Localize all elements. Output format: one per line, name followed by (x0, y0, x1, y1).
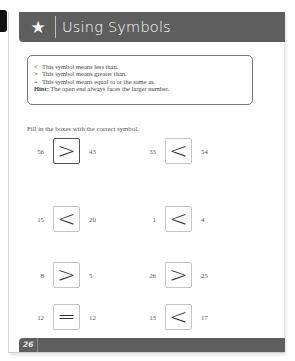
answer-box[interactable]: < (165, 206, 192, 232)
info-line-less-than: <This symbol means less than. (34, 63, 246, 70)
right-number: 4 (192, 216, 210, 223)
answer-box[interactable]: > (53, 262, 80, 288)
problem-3: 15 < 20 (27, 206, 98, 232)
info-line-equal: =This symbol means equal to or the same … (34, 78, 246, 85)
right-number: 20 (80, 216, 98, 223)
answer-box[interactable]: < (165, 304, 192, 330)
left-number: 1 (139, 216, 165, 223)
page-number: 26 (23, 340, 33, 349)
less-than-symbol: < (34, 63, 42, 70)
problem-5: 8 > 5 (27, 262, 98, 288)
worksheet-page: ★ Using Symbols <This symbol means less … (8, 12, 284, 353)
greater-than-symbol: > (34, 70, 42, 77)
answer-box[interactable]: < (165, 138, 192, 164)
problem-4: 1 < 4 (139, 206, 210, 232)
symbol-info-box: <This symbol means less than. >This symb… (27, 55, 253, 105)
right-number: 5 (80, 272, 98, 279)
hint-label: Hint: (34, 85, 49, 92)
left-number: 8 (27, 272, 53, 279)
equal-symbol: = (34, 78, 42, 85)
answer-box[interactable]: > (53, 138, 80, 164)
left-number: 56 (27, 148, 53, 155)
answer-box[interactable]: > (165, 262, 192, 288)
right-number: 25 (192, 272, 210, 279)
left-number: 26 (139, 272, 165, 279)
page-footer: 26 (19, 338, 285, 352)
right-number: 17 (192, 314, 210, 321)
problem-2: 33 < 54 (139, 138, 210, 164)
right-number: 54 (192, 148, 210, 155)
problem-1: 56 > 43 (27, 138, 98, 164)
left-number: 33 (139, 148, 165, 155)
star-icon: ★ (25, 19, 51, 36)
answer-box[interactable]: < (53, 206, 80, 232)
problem-8: 13 < 17 (139, 304, 210, 330)
footer-divider (37, 338, 38, 352)
hint-line: Hint: The open end always faces the larg… (34, 85, 246, 92)
right-number: 43 (80, 148, 98, 155)
problem-7: 12 = 12 (27, 304, 98, 330)
header-divider (55, 16, 56, 38)
hint-text: The open end always faces the larger num… (50, 85, 169, 92)
left-number: 12 (27, 314, 53, 321)
right-number: 12 (80, 314, 98, 321)
page-header: ★ Using Symbols (19, 12, 285, 42)
black-edge-tab (0, 10, 7, 32)
answer-box[interactable]: = (53, 304, 80, 330)
left-number: 13 (139, 314, 165, 321)
instruction-text: Fill in the boxes with the correct symbo… (27, 125, 139, 132)
problem-6: 26 > 25 (139, 262, 210, 288)
left-number: 15 (27, 216, 53, 223)
page-title: Using Symbols (62, 19, 171, 35)
info-line-greater-than: >This symbol means greater than. (34, 70, 246, 77)
